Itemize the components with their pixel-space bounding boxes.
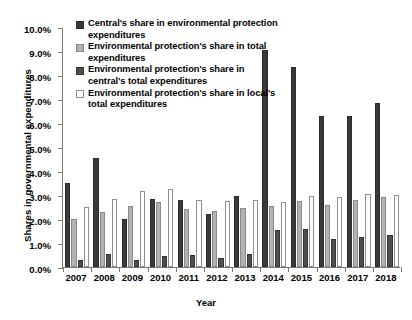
x-axis-tick-label: 2017 <box>347 272 368 283</box>
bar <box>381 197 386 267</box>
y-axis-tick-label: 5.0% <box>29 144 51 155</box>
bar <box>128 206 133 267</box>
bar <box>168 189 173 267</box>
x-axis-tick-label: 2011 <box>178 272 199 283</box>
bar <box>365 194 370 267</box>
bar <box>196 200 201 267</box>
bar <box>106 254 111 267</box>
x-axis-tick <box>345 267 346 272</box>
bar <box>337 197 342 267</box>
bar <box>253 200 258 267</box>
y-axis-tick-label: 6.0% <box>29 120 51 131</box>
y-axis-tick-label: 10.0% <box>24 24 51 35</box>
bar <box>178 200 183 267</box>
bar <box>331 239 336 267</box>
y-axis-tick-label: 0.0% <box>29 264 51 275</box>
bar <box>212 211 217 267</box>
bar <box>225 201 230 267</box>
legend-swatch-icon <box>76 67 84 75</box>
legend-item: Central's share in environmental protect… <box>76 18 284 41</box>
x-axis-tick <box>176 267 177 272</box>
bar <box>309 196 314 267</box>
bar <box>240 208 245 267</box>
bar <box>65 183 70 267</box>
bar <box>78 260 83 267</box>
x-axis-tick <box>260 267 261 272</box>
y-axis-tick-label: 2.0% <box>29 216 51 227</box>
bar-group <box>317 28 345 267</box>
legend-swatch-icon <box>76 44 84 52</box>
x-axis-tick <box>373 267 374 272</box>
bar <box>347 116 352 267</box>
x-axis-tick-label: 2015 <box>291 272 312 283</box>
legend-item: Environmental protection's share in cent… <box>76 64 284 87</box>
bar-group <box>288 28 316 267</box>
bar <box>218 258 223 267</box>
y-axis-tick-label: 4.0% <box>29 168 51 179</box>
bar <box>387 235 392 267</box>
y-axis-tick-label: 7.0% <box>29 96 51 107</box>
bar <box>122 219 127 267</box>
legend-label: Central's share in environmental protect… <box>88 18 284 41</box>
legend-label: Environmental protection's share in cent… <box>88 64 284 87</box>
bar <box>394 195 399 267</box>
bar <box>150 199 155 267</box>
bar <box>184 209 189 267</box>
bar <box>156 202 161 267</box>
legend-item: Environmental protection's share in loca… <box>76 88 284 111</box>
y-axis-tick-label: 3.0% <box>29 192 51 203</box>
bar-group <box>373 28 401 267</box>
legend-label: Environmental protection's share in loca… <box>88 88 284 111</box>
bar <box>291 67 296 267</box>
bar <box>319 116 324 267</box>
x-axis-tick-label: 2009 <box>122 272 143 283</box>
x-axis-tick <box>288 267 289 272</box>
bar <box>112 199 117 267</box>
x-axis-tick <box>204 267 205 272</box>
x-axis-tick-label: 2007 <box>66 272 87 283</box>
bar <box>275 230 280 267</box>
bar <box>297 201 302 267</box>
bar <box>247 254 252 267</box>
bar <box>234 196 239 267</box>
bar <box>353 200 358 267</box>
y-axis-tick-label: 1.0% <box>29 240 51 251</box>
bar <box>303 229 308 267</box>
bar <box>100 212 105 267</box>
legend-swatch-icon <box>76 90 84 98</box>
bar <box>375 103 380 267</box>
x-axis-tick-label: 2012 <box>206 272 227 283</box>
x-axis-tick <box>317 267 318 272</box>
bar <box>93 158 98 267</box>
legend-swatch-icon <box>76 21 84 29</box>
bar <box>269 206 274 267</box>
bar <box>140 191 145 267</box>
x-axis-tick-label: 2018 <box>375 272 396 283</box>
x-axis-tick <box>148 267 149 272</box>
bar <box>190 255 195 267</box>
legend-item: Environmental protection's share in tota… <box>76 41 284 64</box>
bar-chart: Shares in governmental expenditures Year… <box>0 0 412 320</box>
x-axis-tick <box>119 267 120 272</box>
x-axis-tick <box>232 267 233 272</box>
bar <box>84 207 89 267</box>
x-axis-tick <box>63 267 64 272</box>
bar <box>325 205 330 267</box>
bar <box>206 214 211 267</box>
x-axis-tick <box>91 267 92 272</box>
y-axis-tick-label: 8.0% <box>29 72 51 83</box>
x-axis-tick-label: 2013 <box>235 272 256 283</box>
x-axis-title: Year <box>0 297 412 308</box>
x-axis-tick-label: 2016 <box>319 272 340 283</box>
x-axis-tick <box>401 267 402 272</box>
bar <box>281 202 286 267</box>
chart-legend: Central's share in environmental protect… <box>76 18 284 111</box>
bar <box>134 260 139 267</box>
bar-group <box>345 28 373 267</box>
bar <box>71 219 76 267</box>
y-axis-tick-label: 9.0% <box>29 48 51 59</box>
x-axis-tick-label: 2008 <box>94 272 115 283</box>
bar <box>162 256 167 267</box>
bar <box>359 237 364 267</box>
x-axis-tick-label: 2014 <box>263 272 284 283</box>
